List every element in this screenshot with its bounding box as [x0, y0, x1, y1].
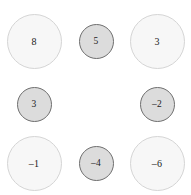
grid-cell-r2c0: –1: [2, 131, 66, 195]
bubble-r0c2: 3: [130, 14, 185, 69]
bubble-value-r0c2: 3: [154, 37, 159, 47]
bubble-r1c0: 3: [17, 87, 52, 122]
grid-cell-r2c2: –6: [125, 131, 189, 195]
grid-cell-r0c1: 5: [64, 9, 128, 74]
bubble-value-r2c0: –1: [29, 159, 39, 169]
grid-cell-r1c2: –2: [125, 72, 189, 137]
bubble-r0c1: 5: [79, 24, 114, 59]
empty-slot: [79, 87, 114, 122]
bubble-value-r0c1: 5: [94, 37, 99, 47]
grid-cell-r2c1: –4: [64, 131, 128, 195]
bubble-value-r2c1: –4: [91, 159, 101, 169]
bubble-r2c0: –1: [7, 136, 62, 191]
grid-cell-r1c0: 3: [2, 72, 66, 137]
grid-cell-r0c2: 3: [125, 9, 189, 74]
bubble-value-r1c2: –2: [152, 100, 162, 110]
bubble-value-r1c0: 3: [32, 100, 37, 110]
bubble-grid-diagram: 8 5 3 3 –2 –1 –4 –6: [0, 0, 191, 195]
bubble-r0c0: 8: [7, 14, 62, 69]
bubble-r1c2: –2: [140, 87, 175, 122]
bubble-r2c1: –4: [79, 146, 114, 181]
bubble-value-r2c2: –6: [152, 159, 162, 169]
bubble-r2c2: –6: [130, 136, 185, 191]
grid-cell-r0c0: 8: [2, 9, 66, 74]
grid-cell-r1c1-empty: [64, 72, 128, 137]
bubble-value-r0c0: 8: [31, 37, 36, 47]
